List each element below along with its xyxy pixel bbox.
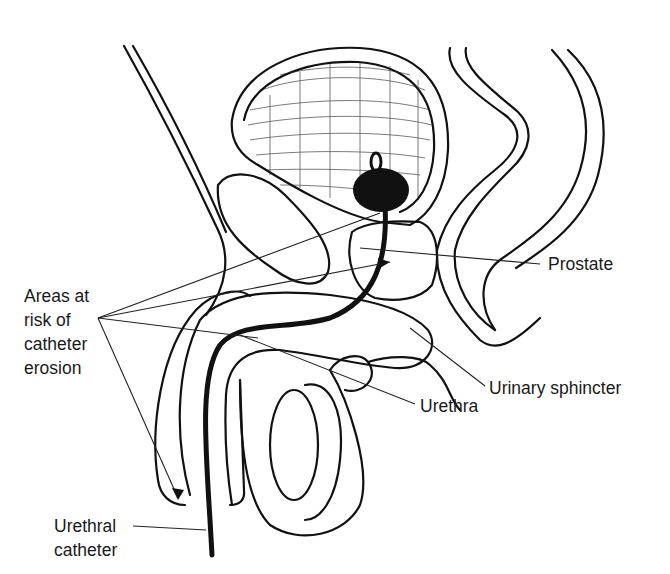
rectum [437,48,604,346]
abdominal-wall [124,46,226,315]
label-urinary-sphincter: Urinary sphincter [489,376,621,400]
bladder [232,48,448,225]
label-urethral-catheter: Urethral catheter [54,514,117,562]
anatomy-diagram [0,0,670,574]
catheter-balloon [353,153,409,212]
label-prostate: Prostate [548,252,613,276]
label-areas-at-risk: Areas at risk of catheter erosion [24,284,89,380]
testis [240,356,460,535]
label-urethra: Urethra [420,394,478,418]
prostate [349,221,437,299]
